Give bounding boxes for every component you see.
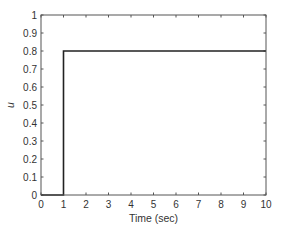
x-tick-label: 10 (260, 199, 272, 210)
y-tick-label: 0.2 (23, 154, 37, 165)
y-tick-label: 0.5 (23, 100, 37, 111)
x-tick-label: 1 (61, 199, 67, 210)
y-axis-label: u (4, 102, 16, 108)
step-response-chart: 01234567891000.10.20.30.40.50.60.70.80.9… (0, 0, 283, 236)
y-tick-label: 0 (31, 190, 37, 201)
x-tick-label: 5 (151, 199, 157, 210)
x-tick-label: 6 (173, 199, 179, 210)
x-tick-label: 8 (218, 199, 224, 210)
x-tick-label: 9 (241, 199, 247, 210)
x-tick-label: 0 (38, 199, 44, 210)
x-tick-label: 3 (106, 199, 112, 210)
y-tick-label: 1 (31, 10, 37, 21)
x-axis-label: Time (sec) (129, 212, 178, 224)
y-tick-label: 0.7 (23, 64, 37, 75)
x-tick-label: 2 (83, 199, 89, 210)
y-tick-label: 0.9 (23, 28, 37, 39)
y-tick-label: 0.4 (23, 118, 37, 129)
y-tick-label: 0.1 (23, 172, 37, 183)
y-tick-label: 0.6 (23, 82, 37, 93)
y-tick-label: 0.8 (23, 46, 37, 57)
plot-background (41, 15, 266, 195)
x-tick-label: 7 (196, 199, 202, 210)
y-tick-label: 0.3 (23, 136, 37, 147)
x-tick-label: 4 (128, 199, 134, 210)
